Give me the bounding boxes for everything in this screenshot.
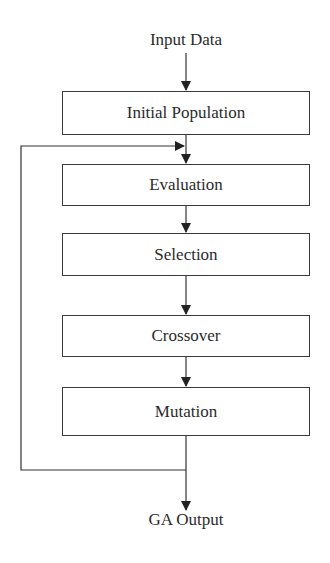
step-evaluation: Evaluation <box>62 164 310 206</box>
ga-output-label: GA Output <box>0 510 330 530</box>
step-initial-population: Initial Population <box>62 91 310 135</box>
step-crossover: Crossover <box>62 315 310 357</box>
step-selection: Selection <box>62 233 310 276</box>
flow-connectors <box>0 0 330 563</box>
input-data-label: Input Data <box>0 30 330 50</box>
step-mutation: Mutation <box>62 387 310 436</box>
